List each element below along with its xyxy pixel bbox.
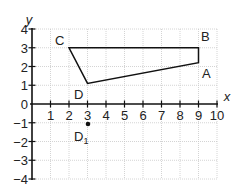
svg-text:−2: −2: [13, 135, 28, 150]
svg-text:−3: −3: [13, 153, 28, 168]
vertex-label-a: A: [202, 66, 211, 81]
x-tick-labels: 1 2 3 4 5 6 7 8 9 10: [47, 108, 224, 123]
svg-text:2: 2: [65, 108, 72, 123]
svg-text:3: 3: [21, 41, 28, 56]
x-axis-label: x: [223, 89, 231, 104]
point-label-d1: D1: [74, 129, 88, 146]
quadrilateral-abcd: [69, 48, 199, 84]
svg-text:8: 8: [176, 108, 183, 123]
svg-text:−1: −1: [13, 116, 28, 131]
vertex-label-d: D: [74, 87, 83, 102]
svg-text:4: 4: [21, 22, 28, 37]
svg-text:5: 5: [121, 108, 128, 123]
svg-text:−4: −4: [13, 172, 28, 187]
point-d1: [86, 122, 91, 127]
svg-text:0: 0: [21, 97, 28, 112]
vertex-label-c: C: [55, 33, 64, 48]
svg-text:1: 1: [47, 108, 54, 123]
svg-text:10: 10: [210, 108, 224, 123]
svg-text:2: 2: [21, 60, 28, 75]
svg-text:7: 7: [158, 108, 165, 123]
coordinate-diagram: y x 1 2 3 4 5 6 7 8 9 10 4 3 2 1 0 −1 −2…: [0, 0, 245, 195]
svg-text:1: 1: [21, 78, 28, 93]
vertex-label-b: B: [201, 29, 210, 44]
y-tick-labels: 4 3 2 1 0 −1 −2 −3 −4: [13, 22, 28, 187]
svg-text:4: 4: [102, 108, 109, 123]
svg-text:9: 9: [195, 108, 202, 123]
svg-text:3: 3: [84, 108, 91, 123]
svg-text:6: 6: [139, 108, 146, 123]
